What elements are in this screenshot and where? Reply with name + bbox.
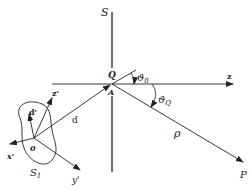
- y-prime-axis: [34, 138, 80, 170]
- label-thetaq: ϑQ: [158, 94, 171, 107]
- label-y-prime: y': [71, 175, 80, 185]
- label-a: A: [107, 87, 114, 97]
- label-z-prime: z': [52, 88, 59, 98]
- label-d-prime: d': [29, 107, 37, 117]
- label-theta0: ϑ0: [137, 72, 149, 85]
- thetaQ-arc: [151, 84, 156, 107]
- label-p: P: [239, 169, 247, 180]
- region-s1-boundary: [19, 102, 56, 164]
- label-z: z: [227, 71, 232, 81]
- label-s1: S1: [30, 167, 41, 180]
- label-q: Q: [108, 70, 116, 80]
- d-vector: [34, 85, 110, 138]
- label-rho: ρ: [173, 127, 181, 140]
- rho-line: [112, 84, 243, 162]
- theta0-arc: [131, 73, 134, 84]
- d-prime-vector: [29, 114, 34, 138]
- label-d: d: [72, 115, 78, 125]
- label-s: S: [101, 6, 109, 19]
- diagram-canvas: S Q A ϑ0 ϑQ z z' d' d 0 x' y' S1 ρ P: [0, 0, 251, 190]
- label-o: 0: [30, 143, 36, 153]
- label-x-prime: x': [6, 151, 14, 161]
